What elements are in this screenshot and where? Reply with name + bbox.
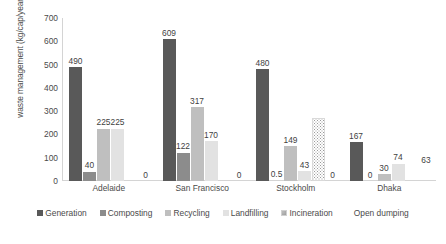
legend-item-generation[interactable]: Generation <box>37 208 86 218</box>
y-tick-label: 300 <box>32 107 58 115</box>
y-tick-label: 0 <box>32 177 58 185</box>
y-axis-title: waste management (kg/cap/year) <box>15 0 25 137</box>
bar-adelaide-landfilling[interactable] <box>111 129 124 181</box>
legend-item-composting[interactable]: Composting <box>100 208 153 218</box>
bar-value-label: 63 <box>421 156 430 164</box>
bar-stockholm-incineration[interactable] <box>312 118 325 181</box>
legend-swatch-icon <box>223 210 229 216</box>
bar-slot-composting: 0 <box>364 18 377 181</box>
bar-group-dhaka: 1670307463 <box>343 18 437 181</box>
bar-adelaide-composting[interactable] <box>83 172 96 181</box>
bar-value-label: 225 <box>111 118 125 126</box>
bar-stockholm-recycling[interactable] <box>284 146 297 181</box>
bar-value-label: 0.5 <box>271 170 283 178</box>
category-label-stockholm: Stockholm <box>249 183 343 193</box>
bar-slot-composting: 122 <box>177 18 190 181</box>
x-axis-category-labels: AdelaideSan FranciscoStockholmDhaka <box>62 183 436 193</box>
bar-slot-incineration <box>125 18 138 181</box>
bar-stockholm-landfilling[interactable] <box>298 171 311 181</box>
bar-stockholm-generation[interactable] <box>256 69 269 181</box>
legend-swatch-icon <box>100 210 106 216</box>
legend-item-recycling[interactable]: Recycling <box>165 208 209 218</box>
bar-dhaka-landfilling[interactable] <box>392 164 405 181</box>
bar-value-label: 0 <box>330 171 335 179</box>
y-tick-label: 500 <box>32 61 58 69</box>
waste-management-bar-chart: waste management (kg/cap/year) 700600500… <box>0 0 446 244</box>
legend-item-landfilling[interactable]: Landfilling <box>223 208 269 218</box>
bar-value-label: 317 <box>190 97 204 105</box>
bar-value-label: 74 <box>393 153 402 161</box>
bar-dhaka-open-dumping[interactable] <box>420 166 433 181</box>
legend-label: Landfilling <box>231 208 269 218</box>
bar-san-francisco-landfilling[interactable] <box>205 141 218 181</box>
legend-swatch-icon <box>346 210 352 216</box>
category-label-san-francisco: San Francisco <box>156 183 250 193</box>
bar-value-label: 167 <box>349 132 363 140</box>
bar-san-francisco-composting[interactable] <box>177 153 190 181</box>
bar-adelaide-recycling[interactable] <box>97 129 110 181</box>
y-tick-label: 100 <box>32 154 58 162</box>
bar-value-label: 0 <box>237 171 242 179</box>
bar-slot-open-dumping: 0 <box>326 18 339 181</box>
bar-value-label: 480 <box>256 59 270 67</box>
y-tick-label: 200 <box>32 130 58 138</box>
legend-swatch-icon <box>37 210 43 216</box>
legend-item-incineration[interactable]: Incineration <box>281 208 332 218</box>
bar-dhaka-generation[interactable] <box>350 142 363 181</box>
bar-slot-generation: 490 <box>69 18 82 181</box>
bar-slot-recycling: 317 <box>191 18 204 181</box>
bar-slot-generation: 480 <box>256 18 269 181</box>
bar-group-san-francisco: 6091223171700 <box>156 18 250 181</box>
bar-group-adelaide: 490402252250 <box>62 18 156 181</box>
legend-label: Generation <box>45 208 86 218</box>
bar-san-francisco-generation[interactable] <box>163 39 176 181</box>
y-tick-label: 600 <box>32 37 58 45</box>
bar-value-label: 0 <box>368 171 373 179</box>
y-axis-tick-labels: 7006005004003002001000 <box>30 18 58 181</box>
legend-label: Recycling <box>173 208 209 218</box>
chart-legend: GenerationCompostingRecyclingLandfilling… <box>0 208 446 218</box>
bar-groups: 49040225225060912231717004800.5149430167… <box>62 18 436 181</box>
legend-label: Open dumping <box>354 208 409 218</box>
bar-value-label: 43 <box>300 161 309 169</box>
bar-slot-recycling: 225 <box>97 18 110 181</box>
legend-swatch-icon <box>281 210 287 216</box>
bar-slot-composting: 40 <box>83 18 96 181</box>
bar-value-label: 40 <box>85 161 94 169</box>
bar-group-stockholm: 4800.5149430 <box>249 18 343 181</box>
bar-slot-recycling: 149 <box>284 18 297 181</box>
bar-value-label: 0 <box>143 171 148 179</box>
bar-adelaide-generation[interactable] <box>69 67 82 181</box>
y-tick-label: 400 <box>32 84 58 92</box>
legend-swatch-icon <box>165 210 171 216</box>
bar-value-label: 170 <box>204 131 218 139</box>
bar-slot-composting: 0.5 <box>270 18 283 181</box>
bar-slot-landfilling: 225 <box>111 18 124 181</box>
bar-value-label: 609 <box>162 29 176 37</box>
bar-slot-landfilling: 170 <box>205 18 218 181</box>
bar-slot-recycling: 30 <box>378 18 391 181</box>
bar-san-francisco-recycling[interactable] <box>191 107 204 181</box>
plot-area: 49040225225060912231717004800.5149430167… <box>62 18 436 181</box>
legend-label: Composting <box>108 208 153 218</box>
bar-value-label: 122 <box>176 142 190 150</box>
bar-value-label: 30 <box>379 164 388 172</box>
bar-slot-incineration <box>312 18 325 181</box>
bar-value-label: 225 <box>97 118 111 126</box>
bar-slot-landfilling: 43 <box>298 18 311 181</box>
bar-slot-generation: 167 <box>350 18 363 181</box>
legend-label: Incineration <box>289 208 332 218</box>
y-tick-label: 700 <box>32 14 58 22</box>
category-label-dhaka: Dhaka <box>343 183 437 193</box>
bar-dhaka-recycling[interactable] <box>378 174 391 181</box>
bars: 4800.5149430 <box>249 18 343 181</box>
bar-value-label: 149 <box>284 136 298 144</box>
bar-slot-open-dumping: 0 <box>233 18 246 181</box>
bars: 490402252250 <box>62 18 156 181</box>
bars: 6091223171700 <box>156 18 250 181</box>
bar-slot-open-dumping: 63 <box>420 18 433 181</box>
bar-slot-open-dumping: 0 <box>139 18 152 181</box>
legend-item-open-dumping[interactable]: Open dumping <box>346 208 409 218</box>
bars: 1670307463 <box>343 18 437 181</box>
category-label-adelaide: Adelaide <box>62 183 156 193</box>
